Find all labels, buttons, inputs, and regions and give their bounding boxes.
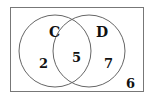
- outside-count: 6: [126, 76, 135, 91]
- d-only-count: 7: [104, 56, 113, 71]
- venn-diagram: C D 2 5 7 6: [0, 0, 149, 99]
- set-d-circle: [53, 15, 125, 87]
- set-d-label: D: [96, 24, 108, 40]
- c-only-count: 2: [39, 56, 48, 71]
- set-c-label: C: [49, 24, 60, 40]
- intersection-count: 5: [72, 50, 81, 65]
